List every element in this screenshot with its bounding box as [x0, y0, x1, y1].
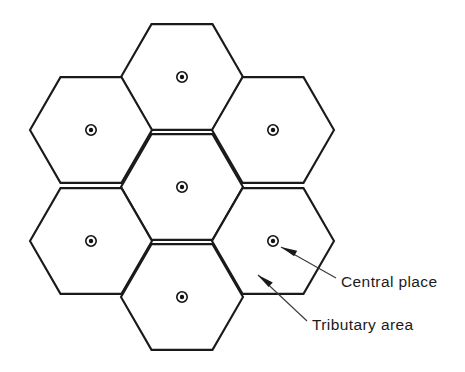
annotation-label-central-place: Central place [341, 273, 438, 290]
figure-container: Central placeTributary area [0, 0, 465, 372]
central-place-diagram: Central placeTributary area [0, 0, 465, 372]
annotation-label-tributary-area: Tributary area [312, 316, 414, 333]
